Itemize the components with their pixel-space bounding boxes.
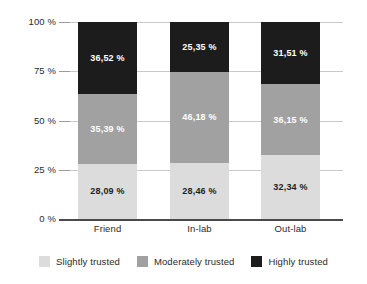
legend-item-moderately-trusted[interactable]: Moderately trusted — [137, 256, 234, 267]
segment-value-label: 35,39 % — [78, 124, 137, 134]
y-tick-label-4: 0 % — [4, 214, 56, 224]
y-tick-label-3: 25 % — [4, 165, 56, 175]
x-axis-label-in-lab: In-lab — [150, 223, 250, 234]
y-tick-label-2: 50 % — [4, 116, 56, 126]
segment-value-label: 28,46 % — [170, 186, 229, 196]
x-axis-baseline — [59, 219, 343, 221]
legend-label: Moderately trusted — [154, 256, 234, 267]
legend-swatch-icon — [251, 256, 262, 267]
y-tick-mark-0 — [59, 22, 70, 23]
legend-label: Highly trusted — [268, 256, 327, 267]
bar-out-lab[interactable]: 31,51 % 36,15 % 32,34 % — [261, 22, 320, 219]
y-tick-label-1: 75 % — [4, 66, 56, 76]
chart-legend: Slightly trusted Moderately trusted High… — [0, 248, 367, 274]
plot-area: 100 % 75 % 50 % 25 % 0 % 36,52 % 35,39 % — [0, 0, 367, 232]
x-axis-label-friend: Friend — [58, 223, 158, 234]
bar-friend[interactable]: 36,52 % 35,39 % 28,09 % — [78, 22, 137, 219]
segment-value-label: 36,52 % — [78, 53, 137, 63]
legend-swatch-icon — [39, 256, 50, 267]
legend-item-highly-trusted[interactable]: Highly trusted — [251, 256, 327, 267]
x-axis-label-out-lab: Out-lab — [241, 223, 341, 234]
segment-moderately-trusted[interactable]: 46,18 % — [170, 72, 229, 163]
segment-value-label: 31,51 % — [261, 48, 320, 58]
segment-slightly-trusted[interactable]: 28,09 % — [78, 164, 137, 219]
segment-value-label: 25,35 % — [170, 42, 229, 52]
segment-highly-trusted[interactable]: 31,51 % — [261, 22, 320, 84]
legend-item-slightly-trusted[interactable]: Slightly trusted — [39, 256, 120, 267]
segment-moderately-trusted[interactable]: 35,39 % — [78, 94, 137, 164]
segment-highly-trusted[interactable]: 36,52 % — [78, 22, 137, 94]
y-tick-mark-3 — [59, 170, 70, 171]
y-tick-label-0: 100 % — [4, 17, 56, 27]
legend-label: Slightly trusted — [56, 256, 120, 267]
segment-value-label: 32,34 % — [261, 182, 320, 192]
segment-value-label: 28,09 % — [78, 186, 137, 196]
segment-highly-trusted[interactable]: 25,35 % — [170, 22, 229, 72]
segment-value-label: 46,18 % — [170, 112, 229, 122]
segment-slightly-trusted[interactable]: 32,34 % — [261, 155, 320, 219]
segment-slightly-trusted[interactable]: 28,46 % — [170, 163, 229, 219]
bar-in-lab[interactable]: 25,35 % 46,18 % 28,46 % — [170, 22, 229, 219]
segment-value-label: 36,15 % — [261, 115, 320, 125]
legend-swatch-icon — [137, 256, 148, 267]
segment-moderately-trusted[interactable]: 36,15 % — [261, 84, 320, 155]
y-tick-mark-2 — [59, 121, 70, 122]
stacked-bar-chart: 100 % 75 % 50 % 25 % 0 % 36,52 % 35,39 % — [0, 0, 367, 284]
y-tick-mark-1 — [59, 71, 70, 72]
